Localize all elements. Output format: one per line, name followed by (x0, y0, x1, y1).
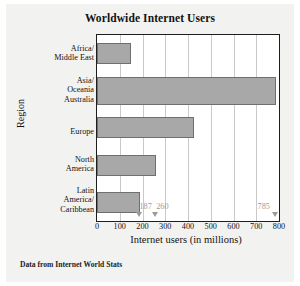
bar-row-europe (97, 109, 194, 146)
y-label-line: America/ (30, 195, 94, 204)
y-label-line: Latin (30, 186, 94, 195)
x-axis-tick-labels: 0 100 200 300 400 500 600 700 800 (96, 222, 280, 234)
y-label-line: Middle East (30, 53, 94, 62)
annotation-label: 187 (140, 202, 152, 211)
x-axis-title: Internet users (in millions) (66, 234, 300, 245)
y-axis-title: Region (15, 82, 26, 146)
source-caption: Data from Internet World Stats (20, 260, 122, 269)
annotation-label: 785 (258, 202, 270, 211)
y-label-line: North (30, 155, 94, 164)
y-axis-label-africa-middle-east: Africa/ Middle East (30, 44, 94, 63)
bar-asia-oceania-australia[interactable] (97, 77, 276, 105)
y-label-line: Australia (30, 95, 94, 104)
y-label-line: Asia/ (30, 76, 94, 85)
bar-europe[interactable] (97, 117, 194, 138)
bar-north-america[interactable] (97, 155, 156, 176)
y-label-line: Caribbean (30, 205, 94, 214)
bar-series (97, 35, 279, 221)
bar-africa-middle-east[interactable] (97, 43, 131, 64)
arrow-down-icon (152, 212, 158, 217)
y-label-line: America (30, 164, 94, 173)
chart-figure: Worldwide Internet Users Region Africa/ … (6, 4, 294, 282)
bar-row-asia-oceania-australia (97, 72, 276, 109)
arrow-down-icon (136, 212, 142, 217)
chart-title: Worldwide Internet Users (6, 12, 294, 24)
y-axis-tick-labels: Africa/ Middle East Asia/ Oceania Austra… (30, 34, 94, 220)
y-label-line: Oceania (30, 85, 94, 94)
y-label-line: Africa/ (30, 44, 94, 53)
y-axis-label-latin-america-caribbean: Latin America/ Caribbean (30, 186, 94, 214)
x-tick-800: 800 (266, 222, 292, 231)
y-axis-label-north-america: North America (30, 155, 94, 174)
y-axis-label-asia-oceania-australia: Asia/ Oceania Australia (30, 76, 94, 104)
y-label-line: Europe (30, 127, 94, 136)
bar-row-north-america (97, 147, 156, 184)
y-axis-label-europe: Europe (30, 127, 94, 136)
annotation-label: 260 (156, 202, 168, 211)
value-annotations: 187 260 785 (96, 202, 280, 224)
plot-area (96, 34, 280, 222)
arrow-down-icon (272, 212, 278, 217)
bar-row-africa-middle-east (97, 35, 131, 72)
